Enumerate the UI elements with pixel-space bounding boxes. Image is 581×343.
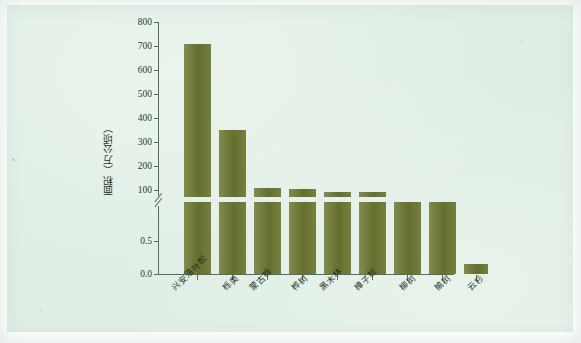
y-tick-label: 700 <box>118 42 152 52</box>
y-axis-title: 面积（万公顷） <box>101 100 116 196</box>
bar-segment-upper <box>359 192 386 197</box>
y-tick-mark <box>154 274 159 275</box>
x-tick-mark <box>197 275 198 280</box>
y-tick-mark <box>154 46 159 47</box>
y-axis-upper-spine <box>158 22 159 196</box>
bar-segment-lower <box>359 202 386 274</box>
y-tick-mark <box>154 70 159 71</box>
y-tick-label: 300 <box>118 138 152 148</box>
bar-chart-plot: 面积（万公顷） 800 700 600 500 400 300 200 100 <box>0 0 581 343</box>
y-tick-label: 200 <box>118 162 152 172</box>
axis-break-icon <box>153 193 166 209</box>
y-tick-label: 0.0 <box>118 270 152 280</box>
bar-segment-lower <box>324 202 351 274</box>
y-tick-mark <box>154 190 159 191</box>
y-tick-label: 800 <box>118 18 152 28</box>
bar-segment-lower <box>254 202 281 274</box>
x-axis-category-label: 蒙古栎 <box>246 264 274 292</box>
figure-page: 面积（万公顷） 800 700 600 500 400 300 200 100 <box>0 0 581 343</box>
x-axis-category-label: 黑木林 <box>316 264 344 292</box>
y-tick-mark <box>154 142 159 143</box>
bar-segment-upper <box>219 130 246 197</box>
y-tick-mark <box>154 241 159 242</box>
bar-segment-upper <box>184 44 211 197</box>
y-tick-label: 600 <box>118 66 152 76</box>
bar-segment-lower <box>289 202 316 274</box>
bar-segment-lower <box>394 202 421 274</box>
y-tick-label: 500 <box>118 90 152 100</box>
y-tick-label: 100 <box>118 186 152 196</box>
y-tick-label: 400 <box>118 114 152 124</box>
bar-segment-upper <box>289 189 316 197</box>
bar-segment-lower <box>429 202 456 274</box>
y-tick-mark <box>154 22 159 23</box>
bar-segment-upper <box>254 188 281 197</box>
y-tick-mark <box>154 94 159 95</box>
y-tick-mark <box>154 118 159 119</box>
x-axis-category-label: 云杉 <box>464 271 486 293</box>
y-tick-label: 0.5 <box>118 237 152 247</box>
y-tick-mark <box>154 166 159 167</box>
bar-segment-lower <box>219 202 246 274</box>
bar-segment-upper <box>324 192 351 197</box>
x-axis-category-label: 樟子松 <box>351 264 379 292</box>
